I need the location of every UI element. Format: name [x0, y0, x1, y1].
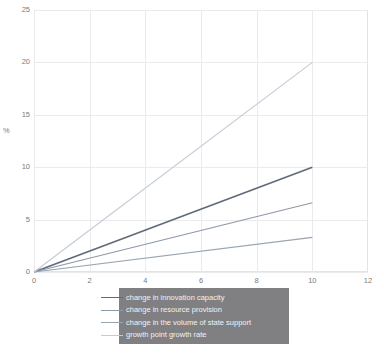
x-tick-label: 12	[364, 277, 372, 285]
legend-item[interactable]: change in resource provision	[123, 304, 289, 317]
line-chart: % 25 20 15 10 5 0 0 2 4 6 8 10 12	[0, 0, 384, 356]
y-axis-tick-labels: 25 20 15 10 5 0	[0, 10, 30, 272]
x-tick-label: 6	[199, 277, 203, 285]
x-tick-label: 2	[88, 277, 92, 285]
x-tick-label: 8	[255, 277, 259, 285]
legend-item-label: change in resource provision	[123, 306, 222, 314]
y-tick-label: 25	[22, 6, 30, 14]
legend-swatch-icon	[101, 297, 123, 298]
y-tick-label: 5	[26, 216, 30, 224]
chart-legend: change in innovation capacity change in …	[119, 288, 289, 344]
y-tick-label: 0	[26, 268, 30, 276]
y-tick-label: 20	[22, 59, 30, 67]
series-line	[34, 203, 312, 272]
series-line	[34, 167, 312, 272]
legend-swatch-icon	[101, 335, 123, 336]
series-line	[34, 62, 312, 272]
legend-swatch-icon	[101, 322, 123, 323]
gridline-horizontal	[34, 272, 368, 273]
series-lines	[34, 10, 368, 272]
legend-item-label: change in innovation capacity	[123, 294, 224, 302]
x-tick-label: 10	[308, 277, 316, 285]
plot-area	[34, 10, 368, 272]
legend-item[interactable]: change in the volume of state support	[123, 316, 289, 329]
legend-item-label: change in the volume of state support	[123, 319, 251, 327]
x-tick-label: 4	[143, 277, 147, 285]
y-tick-label: 15	[22, 111, 30, 119]
legend-item[interactable]: change in innovation capacity	[123, 291, 289, 304]
series-line	[34, 237, 312, 272]
y-tick-label: 10	[22, 163, 30, 171]
legend-swatch-icon	[101, 310, 123, 311]
legend-item-label: growth point growth rate	[123, 331, 206, 339]
x-tick-label: 0	[32, 277, 36, 285]
legend-item[interactable]: growth point growth rate	[123, 329, 289, 342]
